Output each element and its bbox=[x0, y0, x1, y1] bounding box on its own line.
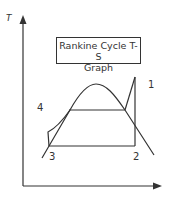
superheat-line bbox=[125, 77, 135, 110]
y-axis-label: T bbox=[6, 14, 12, 23]
point-2-label: 2 bbox=[133, 152, 139, 162]
point-4-label: 4 bbox=[37, 103, 43, 113]
title-line-1: Rankine Cycle T-S bbox=[57, 40, 140, 62]
title-box: Rankine Cycle T-S Graph bbox=[56, 37, 141, 64]
title-line-2: Graph bbox=[57, 62, 140, 73]
x-axis-arrow-icon bbox=[153, 183, 162, 190]
rankine-ts-diagram bbox=[0, 0, 172, 199]
point-1-label: 1 bbox=[148, 80, 154, 90]
y-axis-arrow-icon bbox=[20, 15, 27, 24]
point-3-label: 3 bbox=[49, 152, 55, 162]
saturation-dome bbox=[42, 84, 154, 158]
